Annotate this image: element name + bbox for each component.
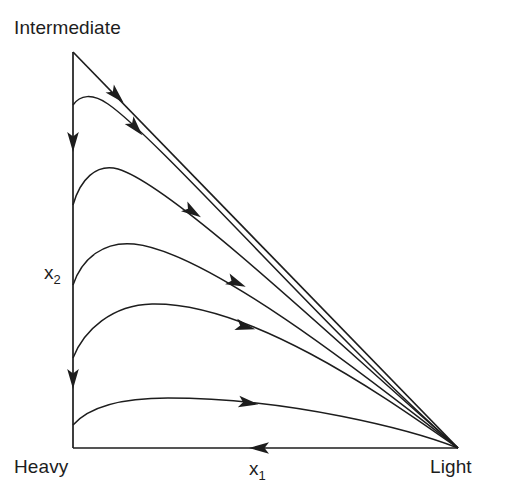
y-axis-label: x2 (44, 263, 61, 286)
trajectory-curve-2 (73, 168, 458, 448)
trajectory-curve-4 (73, 304, 458, 448)
hypotenuse-edge-line (73, 52, 458, 448)
vertex-label-light: Light (430, 457, 472, 476)
arrowhead-trajectory-2 (181, 201, 204, 222)
x-axis-label-subscript: 1 (259, 468, 266, 483)
arrowhead-trajectory-3 (225, 274, 248, 292)
x-axis-label-variable: x (249, 458, 259, 479)
vertex-label-heavy: Heavy (14, 457, 68, 476)
vertex-label-intermediate: Intermediate (14, 18, 121, 37)
y-axis-label-subscript: 2 (54, 272, 61, 287)
x-axis-label: x1 (249, 459, 266, 482)
trajectory-curve-1 (73, 97, 458, 448)
y-axis-label-variable: x (44, 262, 54, 283)
residue-curves (73, 97, 458, 448)
residue-curve-map-svg (0, 0, 520, 504)
phase-diagram-figure: Intermediate Heavy Light x2 x1 (0, 0, 520, 504)
triangle-boundary (73, 52, 458, 448)
trajectory-curve-3 (73, 244, 458, 448)
trajectory-curve-5 (73, 398, 458, 448)
